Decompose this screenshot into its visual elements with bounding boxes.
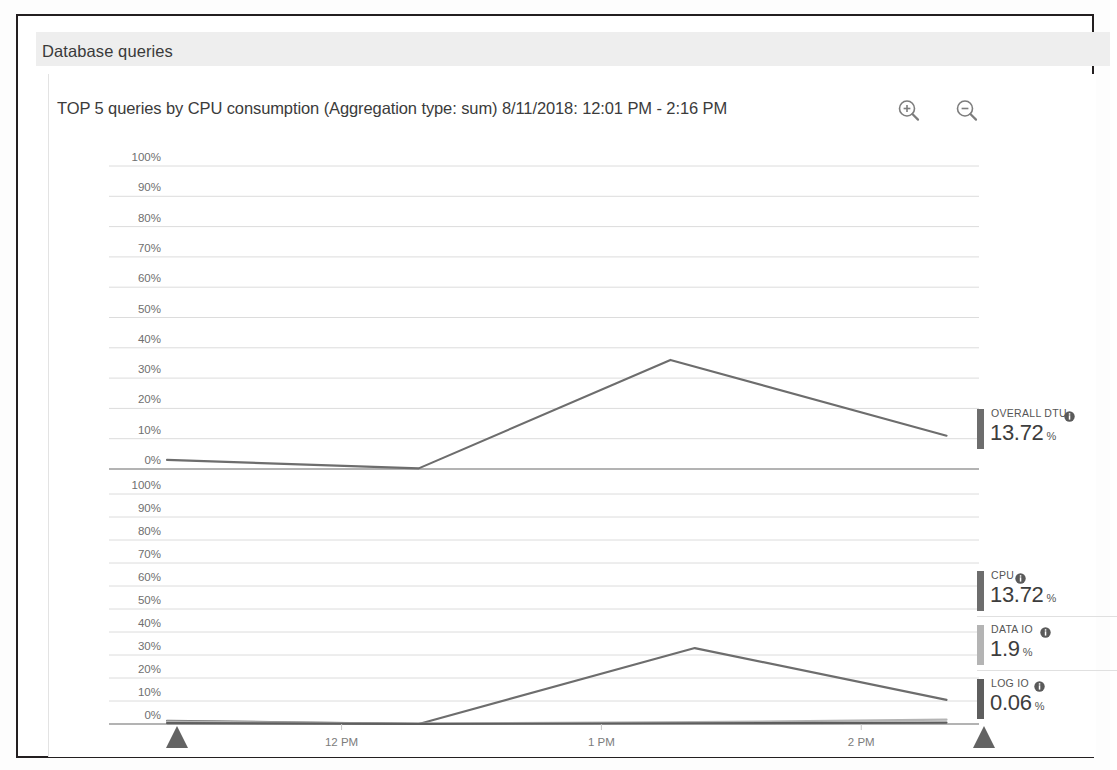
legend-value-unit: % xyxy=(1020,646,1033,658)
y-axis-tick-label: 0% xyxy=(144,709,161,721)
legend-divider xyxy=(977,670,1117,671)
legend-value-unit: % xyxy=(1044,592,1057,604)
x-axis-tick-label: 2 PM xyxy=(848,736,875,748)
y-axis-tick-label: 40% xyxy=(138,333,161,345)
range-end-handle[interactable] xyxy=(973,726,995,748)
y-axis-tick-label: 10% xyxy=(138,686,161,698)
y-axis-tick-label: 50% xyxy=(138,303,161,315)
y-axis-tick-label: 60% xyxy=(138,272,161,284)
legend-value: 0.06 % xyxy=(990,690,1044,716)
legend-label: DATA IO xyxy=(991,623,1033,635)
legend-divider xyxy=(977,616,1117,617)
y-axis-tick-label: 10% xyxy=(138,424,161,436)
series-line-overall-dtu xyxy=(167,360,947,468)
legend-value-number: 13.72 xyxy=(990,420,1044,445)
legend-label: CPU xyxy=(991,569,1014,581)
series-line-log-io xyxy=(167,723,947,724)
x-axis-tick-label: 12 PM xyxy=(325,736,358,748)
legend-value-unit: % xyxy=(1032,700,1045,712)
panel-header-bar xyxy=(36,32,1110,66)
y-axis-tick-label: 60% xyxy=(138,571,161,583)
y-axis-tick-label: 20% xyxy=(138,663,161,675)
y-axis-tick-label: 20% xyxy=(138,393,161,405)
y-axis-tick-label: 90% xyxy=(138,502,161,514)
legend-value: 13.72 % xyxy=(990,420,1056,446)
legend-color-swatch xyxy=(977,571,984,611)
range-start-handle[interactable] xyxy=(166,726,188,748)
legend-color-swatch xyxy=(977,679,984,719)
legend-label: OVERALL DTU xyxy=(991,407,1067,419)
legend-value-number: 0.06 xyxy=(990,690,1032,715)
y-axis-tick-label: 80% xyxy=(138,525,161,537)
x-axis-tick-label: 1 PM xyxy=(588,736,615,748)
info-icon[interactable] xyxy=(1064,408,1075,419)
y-axis-tick-label: 30% xyxy=(138,363,161,375)
legend-value-unit: % xyxy=(1044,430,1057,442)
panel-title: Database queries xyxy=(42,42,173,61)
legend-value-number: 13.72 xyxy=(990,582,1044,607)
y-axis-tick-label: 100% xyxy=(132,479,161,491)
y-axis-tick-label: 0% xyxy=(144,454,161,466)
series-line-cpu xyxy=(167,648,947,724)
legend-value: 13.72 % xyxy=(990,582,1056,608)
charts-svg[interactable]: 100%90%80%70%60%50%40%30%20%10%0%100%90%… xyxy=(49,74,1097,757)
y-axis-tick-label: 90% xyxy=(138,181,161,193)
legend-value-number: 1.9 xyxy=(990,636,1020,661)
info-icon[interactable] xyxy=(1040,624,1051,635)
y-axis-tick-label: 50% xyxy=(138,594,161,606)
legend-value: 1.9 % xyxy=(990,636,1033,662)
y-axis-tick-label: 70% xyxy=(138,242,161,254)
y-axis-tick-label: 80% xyxy=(138,212,161,224)
y-axis-tick-label: 30% xyxy=(138,640,161,652)
y-axis-tick-label: 100% xyxy=(132,151,161,163)
legend-color-swatch xyxy=(977,625,984,665)
info-icon[interactable] xyxy=(1015,570,1026,581)
legend-color-swatch xyxy=(977,409,984,449)
y-axis-tick-label: 70% xyxy=(138,548,161,560)
info-icon[interactable] xyxy=(1034,678,1045,689)
chart-card: TOP 5 queries by CPU consumption (Aggreg… xyxy=(48,74,1096,757)
legend-label: LOG IO xyxy=(991,677,1029,689)
charts-plot-area: 100%90%80%70%60%50%40%30%20%10%0%100%90%… xyxy=(49,74,1097,757)
database-queries-panel: Database queries TOP 5 queries by CPU co… xyxy=(16,14,1094,758)
y-axis-tick-label: 40% xyxy=(138,617,161,629)
